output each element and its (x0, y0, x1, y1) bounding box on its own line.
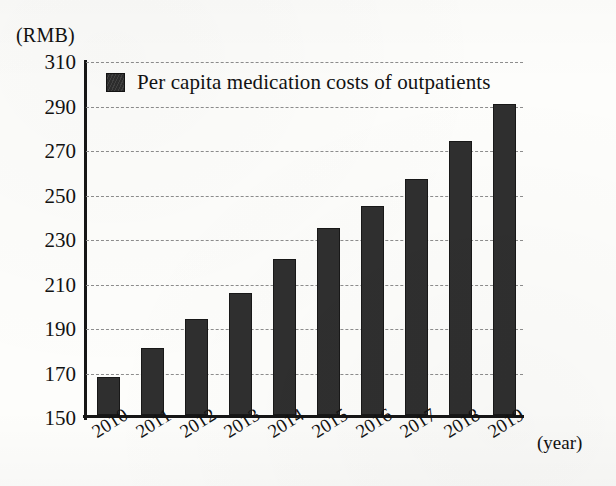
bar-2015 (317, 228, 340, 415)
bar-2014 (273, 259, 296, 415)
y-axis-tick-label: 290 (12, 94, 76, 119)
bar-2013 (229, 293, 252, 415)
y-axis-tick-label: 250 (12, 183, 76, 208)
gridline (86, 62, 523, 63)
x-axis-title: (year) (537, 432, 582, 454)
bar-chart-figure: (RMB) 310290270250230210190170150 201020… (0, 0, 616, 486)
chart-legend: Per capita medication costs of outpatien… (106, 70, 491, 95)
bar-2018 (449, 141, 472, 415)
y-axis-tick-label: 170 (12, 361, 76, 386)
y-axis-tick-label: 210 (12, 272, 76, 297)
plot-area (84, 62, 523, 418)
y-axis-unit-label: (RMB) (16, 24, 75, 47)
y-axis-tick-label: 310 (12, 50, 76, 75)
legend-label: Per capita medication costs of outpatien… (137, 70, 491, 95)
gridline (86, 107, 523, 108)
bar-2016 (361, 206, 384, 415)
y-axis-tick-label: 270 (12, 139, 76, 164)
bar-2012 (185, 319, 208, 415)
y-axis-tick-label: 150 (12, 406, 76, 431)
y-axis-tick-label: 190 (12, 317, 76, 342)
legend-swatch-icon (106, 73, 125, 92)
bar-2017 (405, 179, 428, 415)
bar-2019 (493, 104, 516, 416)
y-axis-tick-label: 230 (12, 228, 76, 253)
